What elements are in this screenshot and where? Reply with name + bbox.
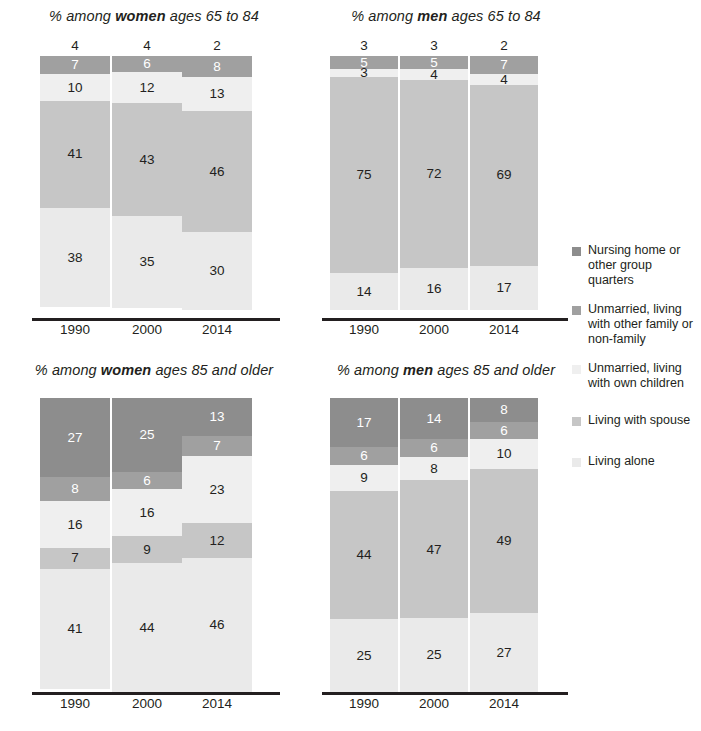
segment-value: 14 [426,412,441,426]
legend-item-nursing-home[interactable]: Nursing home or other group quarters [572,243,700,288]
stacked-bar: 2746917 [470,56,538,318]
bar-segment: 6 [112,56,182,72]
bar-segment: 44 [112,563,182,692]
bar-segment: 3 [330,69,398,77]
legend-label: Unmarried, living with own children [588,361,700,391]
segment-value: 3 [360,66,368,80]
segment-value: 6 [500,424,508,438]
segment-value: 41 [67,147,82,161]
legend-item-unmarried-own-children[interactable]: Unmarried, living with own children [572,361,700,391]
bar-segment: 41 [40,101,110,208]
bar-segment: 6 [470,422,538,440]
bar-segment: 16 [112,489,182,536]
segment-value-outside: 4 [112,39,182,57]
panel-title-prefix: % among [337,362,403,378]
x-tick-label: 2000 [400,322,468,337]
bar-segment: 75 [330,77,398,274]
bar-segment: 23 [182,456,252,523]
stacked-bar: 86104927 [470,398,538,692]
x-tick-label: 2000 [400,696,468,711]
segment-value: 25 [426,648,441,662]
segment-value: 27 [67,431,82,445]
panel-title-prefix: % among [49,8,115,24]
segment-value: 69 [496,168,511,182]
legend-label: Unmarried, living with other family or n… [588,302,700,347]
legend-swatch-icon [572,417,581,426]
panel-title-suffix: ages 85 and older [433,362,555,378]
stacked-bar: 46124335 [112,56,182,318]
x-tick-label: 2000 [112,322,182,337]
segment-value: 6 [143,474,151,488]
segment-value: 27 [496,646,511,660]
segment-value-outside: 3 [330,39,398,57]
segment-value: 25 [356,649,371,663]
segment-value: 4 [430,68,438,82]
x-tick-label: 2014 [182,322,252,337]
bar-segment: 7 [40,56,110,74]
segment-value: 8 [71,482,79,496]
segment-value: 7 [500,58,508,72]
segment-value: 49 [496,534,511,548]
bar-segment: 44 [330,491,398,619]
bar-segment: 12 [112,72,182,103]
segment-value: 12 [139,81,154,95]
panel-title-suffix: ages 65 to 84 [447,8,540,24]
legend-item-living-alone[interactable]: Living alone [572,454,700,469]
bar-segment: 16 [400,268,468,310]
segment-value: 46 [209,618,224,632]
legend-label: Living with spouse [588,413,690,428]
segment-value: 72 [426,167,441,181]
legend-item-unmarried-other-family[interactable]: Unmarried, living with other family or n… [572,302,700,347]
bar-segment: 41 [40,569,110,690]
panel-title-prefix: % among [351,8,417,24]
bar-segment: 6 [330,447,398,464]
legend-label: Living alone [588,454,655,469]
segment-value: 4 [500,73,508,87]
segment-value: 13 [209,410,224,424]
x-tick-label: 1990 [40,322,110,337]
x-tick-label: 2014 [470,696,538,711]
stacked-bar: 14684725 [400,398,468,692]
segment-value: 43 [139,153,154,167]
bar-segment: 14 [400,398,468,439]
panel-title-suffix: ages 65 to 84 [166,8,259,24]
bar-segment: 9 [330,465,398,491]
bar-segment: 8 [470,398,538,422]
segment-value: 30 [209,264,224,278]
bar-segment: 6 [112,472,182,490]
bar-segment: 16 [40,501,110,548]
panel-title-emphasis: women [115,8,165,24]
segment-value: 6 [143,57,151,71]
legend-swatch-icon [572,247,581,256]
bar-segment: 35 [112,216,182,308]
bar-segment: 38 [40,208,110,308]
bar-segment: 4 [400,69,468,79]
bar-segment: 7 [182,436,252,456]
segment-value: 8 [430,462,438,476]
panel-title-men-65-84: % among men ages 65 to 84 [312,8,580,24]
segment-value: 8 [213,60,221,74]
segment-value-outside: 2 [470,39,538,57]
bar-segment: 25 [112,398,182,472]
segment-value: 16 [67,518,82,532]
legend-swatch-icon [572,306,581,315]
bar-segment: 72 [400,80,468,269]
segment-value: 9 [143,543,151,557]
segment-value: 10 [496,447,511,461]
stacked-bar: 3537514 [330,56,398,318]
x-axis-rule [322,692,568,695]
stacked-bar: 47104138 [40,56,110,318]
x-axis-rule [32,692,280,695]
panel-title-women-65-84: % among women ages 65 to 84 [8,8,300,24]
bar-segment: 8 [40,477,110,501]
legend-item-living-with-spouse[interactable]: Living with spouse [572,413,700,428]
x-tick-label: 1990 [330,696,398,711]
bar-segment: 25 [330,619,398,692]
segment-value: 8 [500,403,508,417]
bar-segment: 27 [470,613,538,692]
bar-segment: 4 [470,74,538,84]
bar-segment: 27 [40,398,110,477]
bar-segment: 10 [40,74,110,100]
segment-value: 38 [67,251,82,265]
segment-value-outside: 3 [400,39,468,57]
